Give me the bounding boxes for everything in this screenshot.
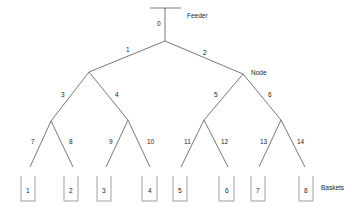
basket: 4 <box>142 176 157 201</box>
edge-label-2: 2 <box>203 49 207 56</box>
baskets-label: Baskets <box>321 184 345 191</box>
edge-label-7: 7 <box>31 138 35 145</box>
basket-label: 7 <box>256 187 260 194</box>
edge-label-4: 4 <box>115 91 119 98</box>
basket: 7 <box>251 176 265 201</box>
edge-label-10: 10 <box>147 138 155 145</box>
basket-label: 6 <box>225 187 229 194</box>
basket: 5 <box>173 176 187 201</box>
basket: 2 <box>64 176 78 201</box>
basket: 8 <box>299 176 313 201</box>
basket-label: 8 <box>304 187 308 194</box>
basket-label: 3 <box>102 187 106 194</box>
binary-tree-diagram: 0 Feeder 1 2 Node 3 4 5 6 7 8 9 10 11 12 <box>0 0 362 214</box>
node-label: Node <box>251 69 267 76</box>
edge-label-5: 5 <box>214 91 218 98</box>
basket-label: 5 <box>178 187 182 194</box>
basket: 3 <box>97 176 111 201</box>
edge-3 <box>51 72 89 121</box>
basket-label: 4 <box>148 187 152 194</box>
edge-5 <box>204 74 243 120</box>
edge-label-3: 3 <box>61 91 65 98</box>
baskets: 1 2 3 4 5 6 7 8 Baskets <box>21 176 345 201</box>
edge-6 <box>243 74 281 120</box>
basket-label: 2 <box>69 187 73 194</box>
edge-label-0: 0 <box>157 20 161 27</box>
edge-label-14: 14 <box>297 138 305 145</box>
edge-label-12: 12 <box>221 138 229 145</box>
edge-4 <box>89 72 128 120</box>
edges-level-3: 7 8 9 10 11 12 13 14 <box>30 120 305 167</box>
feeder: 0 Feeder <box>150 8 208 41</box>
edges-level-2: 3 4 5 6 <box>51 72 281 121</box>
edge-label-11: 11 <box>184 138 191 145</box>
edge-label-13: 13 <box>260 138 268 145</box>
basket: 6 <box>219 176 234 201</box>
edge-label-9: 9 <box>109 138 113 145</box>
edge-2 <box>165 41 243 74</box>
edges-level-1: 1 2 Node <box>89 41 267 76</box>
basket: 1 <box>21 176 35 201</box>
feeder-label: Feeder <box>187 12 208 19</box>
edge-label-6: 6 <box>268 91 272 98</box>
edge-label-1: 1 <box>126 46 130 53</box>
basket-label: 1 <box>26 187 30 194</box>
edge-label-8: 8 <box>69 138 73 145</box>
